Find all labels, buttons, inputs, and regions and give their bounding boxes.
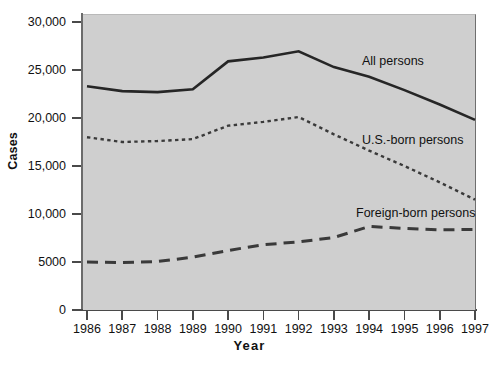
series-label-us-born-persons: U.S.-born persons [362, 133, 463, 147]
series-label-foreign-born-persons: Foreign-born persons [356, 206, 476, 220]
x-axis-title: Year [0, 338, 499, 353]
series-label-all-persons: All persons [362, 54, 424, 68]
series-overlay [0, 0, 499, 365]
series-line-u-s-born-persons [87, 117, 475, 200]
series-line-foreign-born-persons [87, 226, 475, 262]
chart-figure: Cases 0500010,00015,00020,00025,00030,00… [0, 0, 499, 365]
